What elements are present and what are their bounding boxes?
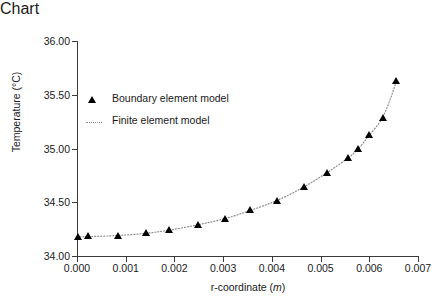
data-point-marker [142,229,150,236]
data-point-marker [221,215,229,222]
data-point-marker [392,77,400,84]
legend-item-boundary-element-model: Boundary element model [88,90,298,112]
legend-item-finite-element-model: Finite element model [88,112,298,134]
legend-label-finite: Finite element model [112,114,209,126]
data-point-marker [379,114,387,121]
data-point-marker [194,221,202,228]
data-point-marker [273,197,281,204]
y-tick-label: 35.00 [22,144,70,155]
plot-area [77,41,418,256]
data-point-marker [74,233,82,240]
finite-element-model-curve [77,41,418,256]
x-axis-title-unit: m [273,281,282,293]
data-point-marker [365,131,373,138]
y-axis-title: Temperature (°C) [10,47,22,177]
data-point-marker [246,206,254,213]
x-axis-line [77,256,419,257]
y-tick-label: 34.50 [22,197,70,208]
legend-label-boundary: Boundary element model [112,92,229,104]
dotted-line-icon [86,122,102,123]
data-point-marker [114,232,122,239]
y-tick-label: 34.00 [22,251,70,262]
data-point-marker [323,169,331,176]
chart-legend: Boundary element model Finite element mo… [88,90,298,134]
data-point-marker [354,145,362,152]
data-point-marker [344,154,352,161]
y-tick-label: 36.00 [22,36,70,47]
data-point-marker [165,226,173,233]
y-tick-label: 35.50 [22,90,70,101]
triangle-marker-icon [88,96,96,103]
chart-figure: 34.0034.5035.0035.5036.00 0.0000.0010.00… [0,18,439,297]
x-axis-title: r-coordinate (m) [77,281,419,293]
x-axis-title-text: r-coordinate [211,281,267,293]
x-tick-label: 0.007 [388,263,439,274]
data-point-marker [300,183,308,190]
data-point-marker [84,232,92,239]
